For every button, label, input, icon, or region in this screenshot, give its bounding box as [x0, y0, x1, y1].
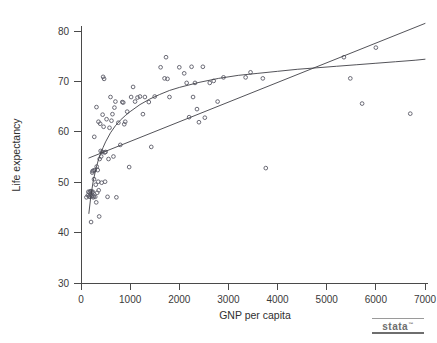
y-tick-label: 50	[58, 177, 70, 188]
y-tick-label: 80	[58, 26, 70, 37]
data-point	[115, 195, 119, 199]
y-tick-label: 40	[58, 227, 70, 238]
data-point	[112, 155, 116, 159]
data-point	[108, 126, 112, 130]
data-point	[190, 65, 194, 69]
x-tick-label: 0	[78, 294, 84, 305]
data-point	[195, 107, 199, 111]
data-point	[244, 76, 248, 80]
data-point	[149, 145, 153, 149]
data-point	[168, 95, 172, 99]
data-point	[203, 116, 207, 120]
x-axis-title: GNP per capita	[219, 309, 291, 321]
data-point	[408, 112, 412, 116]
data-point	[114, 100, 118, 104]
linear-fit-line	[89, 23, 425, 158]
data-point	[348, 77, 352, 81]
y-axis-title: Life expectancy	[10, 118, 22, 192]
log-fit-curve	[89, 59, 425, 213]
x-tick-label: 7000	[414, 294, 437, 305]
data-point	[94, 201, 98, 205]
data-point	[201, 65, 205, 69]
fitted-curves	[89, 23, 425, 213]
data-point	[159, 65, 163, 69]
x-tick-label: 6000	[365, 294, 388, 305]
data-point	[360, 102, 364, 106]
stata-logo-text: stata™	[372, 318, 424, 334]
data-point	[102, 125, 106, 129]
x-tick-label: 4000	[266, 294, 289, 305]
y-tick-label: 60	[58, 126, 70, 137]
chart-figure: 304050607080 010002000300040005000600070…	[0, 0, 437, 343]
x-axis-ticks: 01000200030004000500060007000	[78, 283, 436, 305]
y-tick-label: 70	[58, 76, 70, 87]
data-point	[374, 46, 378, 50]
data-point	[105, 117, 109, 121]
data-point	[177, 65, 181, 69]
data-point	[141, 112, 145, 116]
data-point	[264, 166, 268, 170]
data-point	[103, 180, 107, 184]
data-point	[107, 157, 111, 161]
data-point	[101, 113, 105, 117]
data-point	[97, 215, 101, 219]
stata-logo: stata™	[372, 318, 424, 331]
data-point	[110, 119, 114, 123]
data-point	[164, 55, 168, 59]
data-point	[95, 105, 99, 109]
data-point	[129, 95, 133, 99]
x-tick-label: 3000	[217, 294, 240, 305]
data-point	[208, 81, 212, 85]
data-point	[191, 95, 195, 99]
data-point	[127, 165, 131, 169]
x-tick-label: 1000	[119, 294, 142, 305]
data-point	[109, 95, 113, 99]
data-point	[131, 85, 135, 89]
data-point	[106, 195, 110, 199]
data-point	[89, 220, 93, 224]
scatter-plot-svg: 304050607080 010002000300040005000600070…	[0, 0, 437, 343]
x-tick-label: 5000	[316, 294, 339, 305]
data-point	[197, 120, 201, 124]
data-point	[143, 95, 147, 99]
x-tick-label: 2000	[168, 294, 191, 305]
y-tick-label: 30	[58, 278, 70, 289]
data-point	[185, 81, 189, 85]
data-point-markers	[85, 46, 413, 224]
data-point	[182, 71, 186, 75]
stata-logo-wordmark: stata	[382, 321, 408, 332]
data-point	[261, 77, 265, 81]
data-point	[216, 100, 220, 104]
data-point	[92, 135, 96, 139]
y-axis-ticks: 304050607080	[58, 26, 81, 289]
data-point	[113, 106, 117, 110]
data-point	[133, 100, 137, 104]
trademark-icon: ™	[408, 321, 414, 327]
data-point	[111, 112, 115, 116]
